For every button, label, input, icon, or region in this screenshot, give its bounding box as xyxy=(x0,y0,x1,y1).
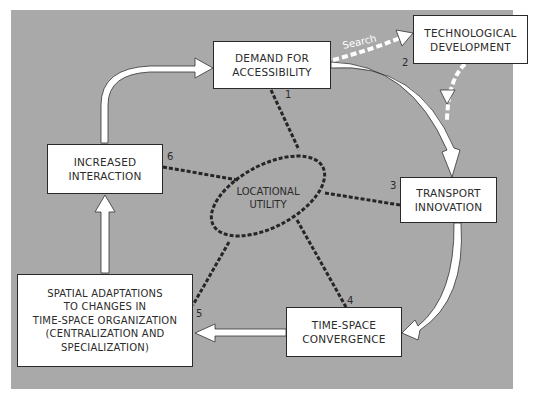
link-4 xyxy=(297,220,346,307)
node-technological-development: TECHNOLOGICAL DEVELOPMENT xyxy=(413,15,528,64)
link-number-2: 2 xyxy=(402,57,408,68)
arrow-transport-to-convergence xyxy=(402,223,461,340)
arrow-demand-to-transport xyxy=(331,62,460,177)
node-transport-innovation: TRANSPORT INNOVATION xyxy=(400,177,497,223)
node-demand-for-accessibility: DEMAND FOR ACCESSIBILITY xyxy=(213,41,331,89)
link-number-5: 5 xyxy=(196,308,202,319)
node-increased-interaction: INCREASED INTERACTION xyxy=(47,144,163,194)
node-spatial-adaptations: SPATIAL ADAPTATIONS TO CHANGES IN TIME-S… xyxy=(17,274,193,367)
link-3 xyxy=(325,193,400,205)
link-number-3: 3 xyxy=(390,180,396,191)
locational-utility-label: LOCATIONAL UTILITY xyxy=(231,185,305,211)
link-5 xyxy=(193,242,229,305)
link-number-6: 6 xyxy=(167,151,173,162)
link-6 xyxy=(163,167,238,180)
node-time-space-convergence: TIME-SPACE CONVERGENCE xyxy=(286,307,402,357)
arrow-spatial-to-interaction xyxy=(95,195,115,273)
arrow-head-tech xyxy=(440,90,455,104)
arrow-head-search xyxy=(396,30,413,46)
link-number-4: 4 xyxy=(347,295,353,306)
link-number-1: 1 xyxy=(285,89,291,100)
arrow-convergence-to-spatial xyxy=(195,324,286,342)
arrow-interaction-to-demand xyxy=(101,58,213,143)
